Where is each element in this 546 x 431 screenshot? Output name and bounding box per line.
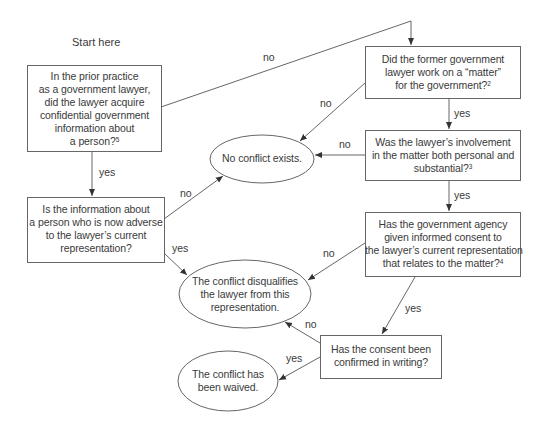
edge-q5-r2 <box>164 253 187 275</box>
footnote-marker: 5 <box>116 136 120 143</box>
edge-label-q4-q6: yes <box>405 302 421 314</box>
edge-label-q5-r1: no <box>180 187 192 199</box>
q5-text: Is the information about a person who is… <box>27 203 165 255</box>
edge-label-q4-r2: no <box>323 247 335 259</box>
q2-text: Did the former government lawyer work on… <box>365 53 521 92</box>
edge-q5-r1 <box>164 176 223 219</box>
start-label: Start here <box>72 36 120 48</box>
r2-text: The conflict disqualifies the lawyer fro… <box>179 275 311 314</box>
edge-label-q2-q3: yes <box>454 107 470 119</box>
q1-text: In the prior practice as a government la… <box>27 70 162 148</box>
footnote-marker: 4 <box>500 258 504 265</box>
edge-label-q1-q2: no <box>263 51 275 63</box>
edge-label-q6-r3: yes <box>286 352 302 364</box>
edge-q4-r2 <box>308 243 365 280</box>
footnote-marker: 2 <box>487 80 491 87</box>
q3-text: Was the lawyer’s involvement in the matt… <box>365 136 521 175</box>
edge-label-q3-r1: no <box>339 138 351 150</box>
footnote-marker: 3 <box>469 163 473 170</box>
edge-label-q1-q5: yes <box>99 166 115 178</box>
r1-text: No conflict exists. <box>210 152 314 165</box>
q6-text: Has the consent been confirmed in writin… <box>320 343 442 369</box>
edge-label-q3-q4: yes <box>454 189 470 201</box>
edge-label-q6-r2: no <box>305 318 317 330</box>
q4-text: Has the government agency given informed… <box>365 218 521 270</box>
edge-q2-r1 <box>300 83 365 141</box>
edge-label-q5-r2: yes <box>172 242 188 254</box>
edge-label-q2-r1: no <box>320 97 332 109</box>
r3-text: The conflict has been waived. <box>178 368 278 394</box>
